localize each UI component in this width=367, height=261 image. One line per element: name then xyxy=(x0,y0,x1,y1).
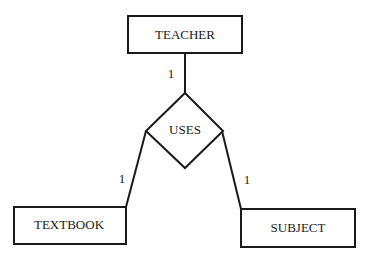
relationship-uses: USES xyxy=(146,93,223,168)
cardinality-textbook: 1 xyxy=(119,171,126,186)
connector-uses-subject xyxy=(222,131,241,209)
entity-teacher-label: TEACHER xyxy=(155,27,215,42)
entity-textbook: TEXTBOOK xyxy=(14,207,126,244)
cardinality-subject: 1 xyxy=(244,172,251,187)
relationship-uses-label: USES xyxy=(169,122,201,137)
entity-teacher: TEACHER xyxy=(128,16,242,53)
cardinality-teacher: 1 xyxy=(168,66,175,81)
er-diagram: TEACHER USES TEXTBOOK SUBJECT 1 1 1 xyxy=(0,0,367,261)
entity-subject-label: SUBJECT xyxy=(271,220,326,235)
entity-textbook-label: TEXTBOOK xyxy=(34,217,105,232)
entity-subject: SUBJECT xyxy=(241,209,355,247)
connector-uses-textbook xyxy=(126,131,146,207)
